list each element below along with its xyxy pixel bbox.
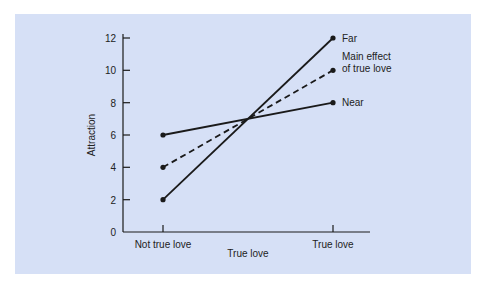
- x-tick-label-not-true-love: Not true love: [135, 239, 192, 250]
- line-chart: 0 2 4 6 8 10 12 Not true love True love …: [0, 0, 488, 289]
- svg-text:10: 10: [105, 65, 117, 76]
- y-axis-title: Attraction: [86, 114, 97, 156]
- svg-text:0: 0: [110, 227, 116, 238]
- svg-text:8: 8: [110, 98, 116, 109]
- series-label-far: Far: [342, 33, 358, 44]
- svg-text:6: 6: [110, 130, 116, 141]
- y-tick-labels: 0 2 4 6 8 10 12: [105, 33, 117, 238]
- series-label-near: Near: [342, 97, 364, 108]
- svg-text:12: 12: [105, 33, 117, 44]
- series-near-line: [163, 103, 333, 135]
- y-ticks: [123, 38, 130, 200]
- x-axis-title: True love: [227, 248, 269, 259]
- series-label-main-effect-1: Main effect: [342, 51, 391, 62]
- svg-text:2: 2: [110, 195, 116, 206]
- x-tick-label-true-love: True love: [312, 239, 354, 250]
- series-label-main-effect-2: of true love: [342, 63, 392, 74]
- svg-text:4: 4: [110, 162, 116, 173]
